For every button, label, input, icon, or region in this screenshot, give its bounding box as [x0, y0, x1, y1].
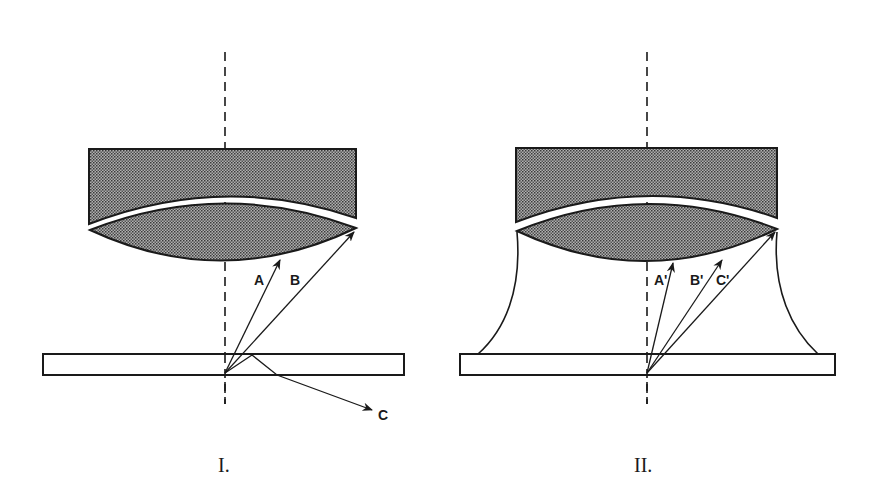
- panel-label-i: I.: [218, 454, 230, 476]
- ray-label-a: A: [254, 272, 264, 288]
- ray-label-c: C: [378, 407, 388, 423]
- front-lens-i: [90, 203, 356, 260]
- panel-ii: A' B' C' II.: [460, 52, 835, 476]
- ray-label-c-prime: C': [716, 272, 729, 288]
- ray-label-a-prime: A': [654, 272, 667, 288]
- cover-slip-i: [43, 354, 404, 375]
- panel-label-ii: II.: [634, 454, 652, 476]
- ray-label-b: B: [290, 272, 300, 288]
- diagram-canvas: A B C I. A' B' C' II.: [0, 0, 871, 500]
- ray-label-b-prime: B': [690, 272, 703, 288]
- panel-i: A B C I.: [43, 52, 404, 476]
